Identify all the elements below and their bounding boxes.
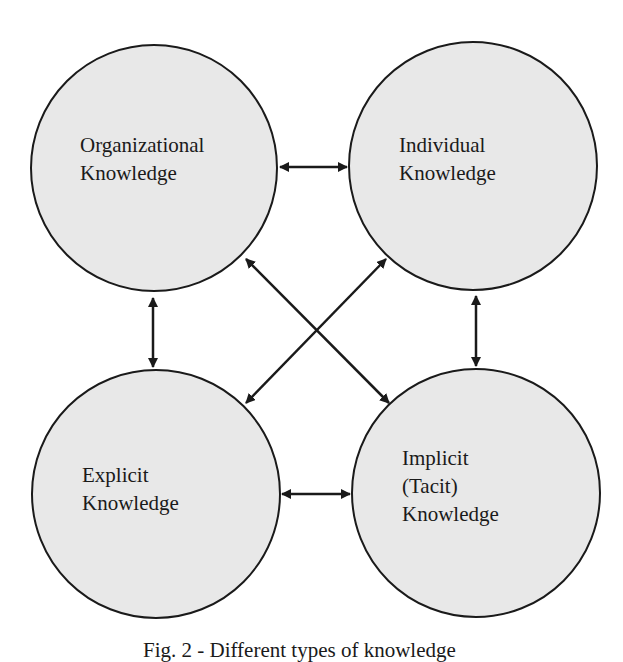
label-line: Explicit [82,461,179,489]
label-line: Implicit [402,444,499,472]
node-explicit-label: Explicit Knowledge [82,461,179,517]
label-line: Knowledge [82,489,179,517]
node-organizational-label: Organizational Knowledge [80,131,204,187]
label-line: Individual [399,131,496,159]
label-line: (Tacit) [402,472,499,500]
node-individual-label: Individual Knowledge [399,131,496,187]
label-line: Knowledge [399,159,496,187]
label-line: Knowledge [80,159,204,187]
node-implicit-label: Implicit (Tacit) Knowledge [402,444,499,528]
figure-caption: Fig. 2 - Different types of knowledge [143,638,456,662]
label-line: Organizational [80,131,204,159]
label-line: Knowledge [402,500,499,528]
